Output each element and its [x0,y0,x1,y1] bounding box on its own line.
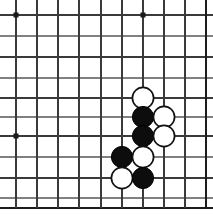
stone-white-5-8[interactable] [111,167,132,188]
stones-layer[interactable] [111,87,174,188]
go-board[interactable] [0,0,213,217]
stone-white-6-7[interactable] [132,146,153,167]
board-grid [0,0,213,208]
star-point-1 [141,13,146,18]
stone-white-7-5[interactable] [153,106,174,127]
stone-white-7-6[interactable] [153,125,174,146]
stone-white-6-4[interactable] [132,87,153,108]
stone-black-6-6[interactable] [132,125,153,146]
stone-black-6-8[interactable] [132,167,153,188]
go-board-canvas[interactable] [0,0,213,217]
stone-black-5-7[interactable] [111,146,132,167]
star-point-0 [14,13,19,18]
star-point-2 [14,134,19,139]
stone-black-6-5[interactable] [132,106,153,127]
